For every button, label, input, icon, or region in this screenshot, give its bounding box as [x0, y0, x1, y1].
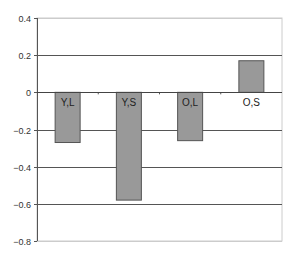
- bar-label: Y,L: [61, 97, 75, 108]
- y-tick-label: −0.6: [13, 200, 31, 210]
- y-tick-label: −0.2: [13, 126, 31, 136]
- bar-label: Y,S: [121, 97, 136, 108]
- bar-label: O,S: [243, 97, 261, 108]
- y-tick-label: 0: [26, 88, 31, 98]
- y-tick-label: −0.8: [13, 237, 31, 247]
- y-tick-label: −0.4: [13, 163, 31, 173]
- y-tick-label: 0.4: [18, 14, 31, 24]
- bar-chart: Y,LY,SO,LO,S 0.40.20−0.2−0.4−0.6−0.8: [0, 0, 293, 259]
- bar-o-s: [239, 61, 264, 93]
- bar-label: O,L: [182, 97, 199, 108]
- bar-y-s: [116, 92, 141, 200]
- y-tick-label: 0.2: [18, 51, 31, 61]
